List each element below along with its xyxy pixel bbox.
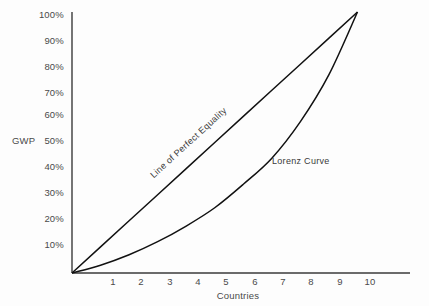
y-tick-label: 80% bbox=[18, 61, 64, 72]
x-tick-label: 10 bbox=[365, 276, 376, 287]
x-tick-label: 4 bbox=[195, 276, 200, 287]
y-tick-label: 60% bbox=[18, 109, 64, 120]
x-tick-label: 1 bbox=[110, 276, 115, 287]
x-tick-label: 5 bbox=[223, 276, 228, 287]
lorenz-curve-chart: 100% 90% 80% 70% 60% 50% 40% 30% 20% 10%… bbox=[0, 0, 429, 306]
x-axis-title: Countries bbox=[217, 290, 259, 301]
x-tick-label: 2 bbox=[138, 276, 143, 287]
lorenz-curve-label: Lorenz Curve bbox=[272, 156, 330, 166]
y-tick-label: 100% bbox=[18, 9, 64, 20]
x-tick-label: 6 bbox=[252, 276, 257, 287]
y-tick-label: 10% bbox=[18, 239, 64, 250]
chart-plot-area bbox=[0, 0, 429, 306]
y-axis-title: GWP bbox=[12, 135, 35, 146]
y-tick-label: 40% bbox=[18, 161, 64, 172]
y-tick-label: 20% bbox=[18, 213, 64, 224]
x-tick-label: 3 bbox=[167, 276, 172, 287]
y-tick-label: 30% bbox=[18, 187, 64, 198]
y-tick-label: 90% bbox=[18, 35, 64, 46]
x-tick-label: 9 bbox=[337, 276, 342, 287]
x-tick-label: 8 bbox=[308, 276, 313, 287]
x-tick-label: 7 bbox=[280, 276, 285, 287]
line-of-perfect-equality bbox=[72, 12, 358, 273]
y-tick-label: 70% bbox=[18, 87, 64, 98]
